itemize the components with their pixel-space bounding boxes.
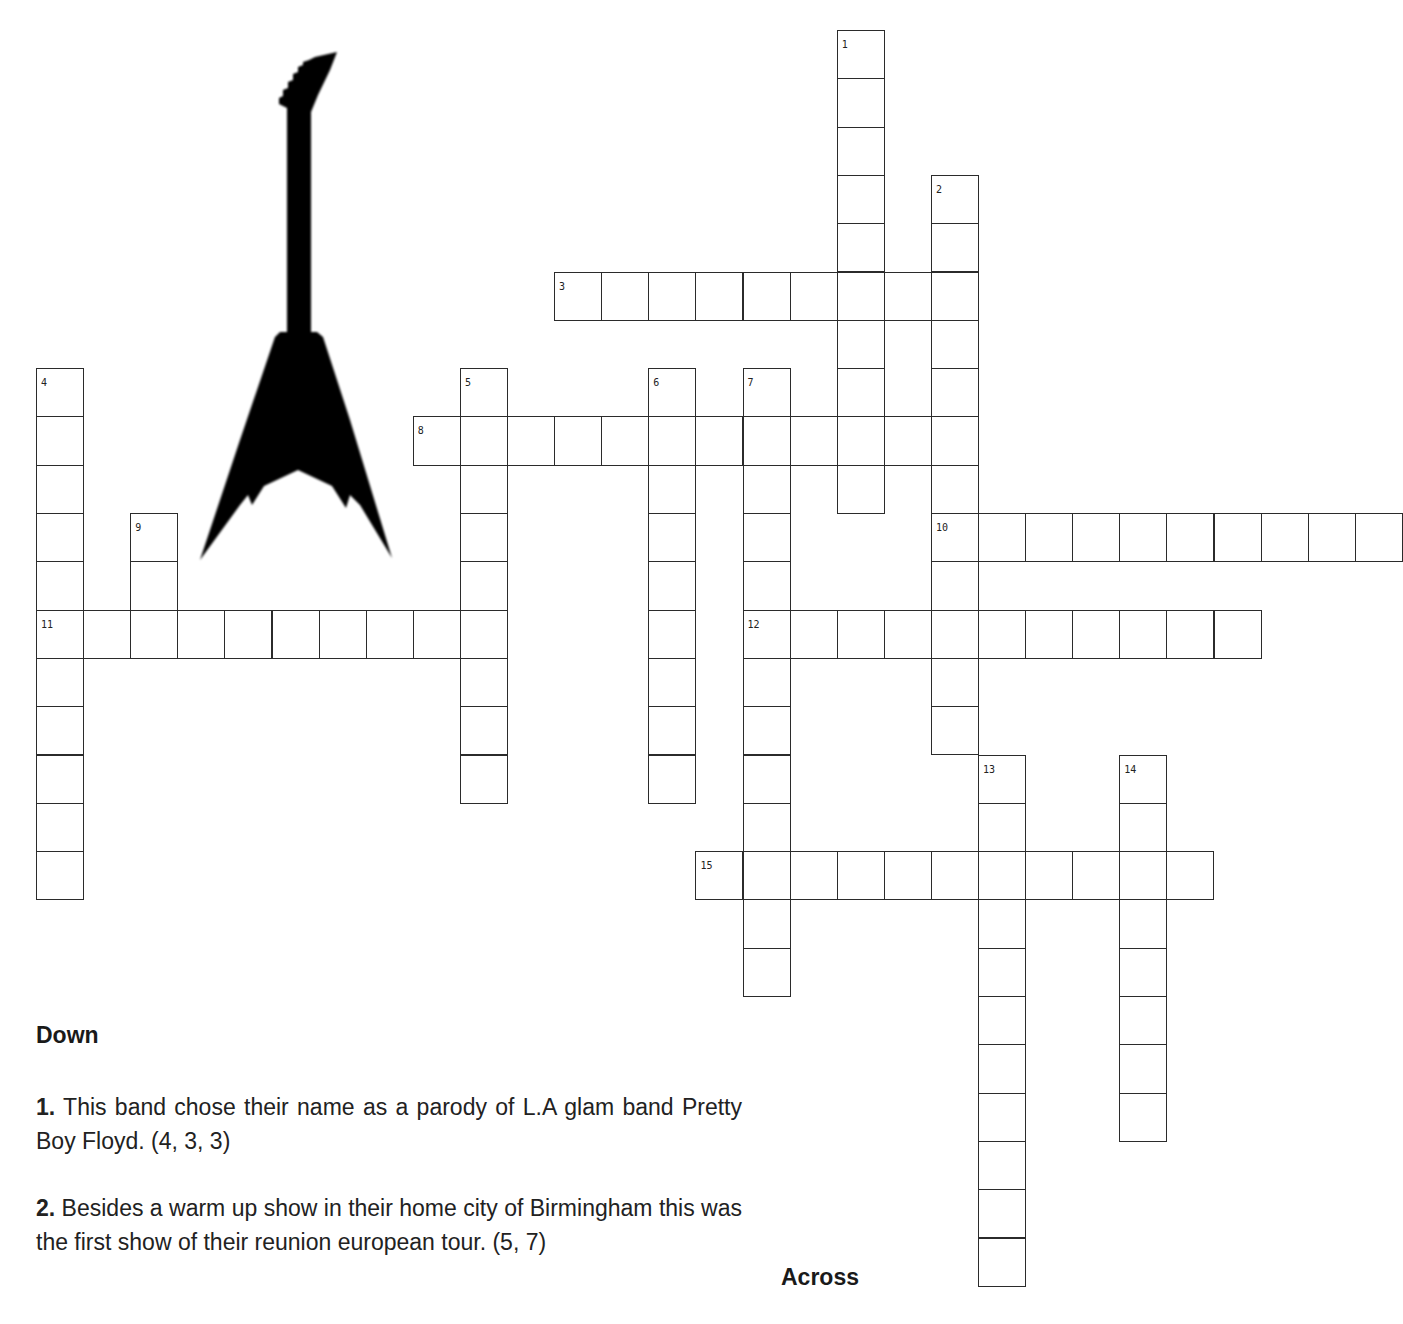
grid-cell[interactable]: 4: [36, 368, 84, 417]
grid-cell[interactable]: [1072, 513, 1120, 562]
grid-cell[interactable]: [931, 320, 979, 369]
grid-cell[interactable]: [837, 465, 885, 514]
grid-cell[interactable]: 11: [36, 610, 84, 659]
grid-cell[interactable]: [460, 658, 508, 707]
grid-cell[interactable]: [1119, 948, 1167, 997]
grid-cell[interactable]: [978, 1044, 1026, 1093]
grid-cell[interactable]: [1119, 610, 1167, 659]
grid-cell[interactable]: 5: [460, 368, 508, 417]
grid-cell[interactable]: [36, 706, 84, 755]
grid-cell[interactable]: [931, 465, 979, 514]
grid-cell[interactable]: [1308, 513, 1356, 562]
grid-cell[interactable]: [1166, 610, 1214, 659]
grid-cell[interactable]: [931, 368, 979, 417]
grid-cell[interactable]: [931, 706, 979, 755]
grid-cell[interactable]: [648, 610, 696, 659]
grid-cell[interactable]: 13: [978, 755, 1026, 804]
grid-cell[interactable]: [978, 1189, 1026, 1238]
grid-cell[interactable]: [36, 561, 84, 610]
grid-cell[interactable]: [460, 513, 508, 562]
grid-cell[interactable]: [648, 465, 696, 514]
grid-cell[interactable]: [884, 610, 932, 659]
grid-cell[interactable]: [648, 561, 696, 610]
grid-cell[interactable]: [837, 78, 885, 127]
grid-cell[interactable]: [743, 272, 791, 321]
grid-cell[interactable]: [1119, 1093, 1167, 1142]
grid-cell[interactable]: 1: [837, 30, 885, 79]
grid-cell[interactable]: [1119, 803, 1167, 852]
grid-cell[interactable]: [1119, 513, 1167, 562]
grid-cell[interactable]: [743, 706, 791, 755]
grid-cell[interactable]: [837, 320, 885, 369]
grid-cell[interactable]: [837, 127, 885, 176]
grid-cell[interactable]: [743, 755, 791, 804]
grid-cell[interactable]: [743, 658, 791, 707]
grid-cell[interactable]: 12: [743, 610, 791, 659]
grid-cell[interactable]: [460, 610, 508, 659]
grid-cell[interactable]: [1119, 899, 1167, 948]
grid-cell[interactable]: [743, 851, 791, 900]
grid-cell[interactable]: [36, 803, 84, 852]
grid-cell[interactable]: [978, 1141, 1026, 1190]
grid-cell[interactable]: [648, 658, 696, 707]
grid-cell[interactable]: [790, 272, 838, 321]
grid-cell[interactable]: [837, 272, 885, 321]
grid-cell[interactable]: [743, 899, 791, 948]
grid-cell[interactable]: [36, 755, 84, 804]
grid-cell[interactable]: [978, 513, 1026, 562]
grid-cell[interactable]: [460, 755, 508, 804]
grid-cell[interactable]: [36, 851, 84, 900]
grid-cell[interactable]: [648, 416, 696, 465]
grid-cell[interactable]: [931, 851, 979, 900]
grid-cell[interactable]: [837, 416, 885, 465]
grid-cell[interactable]: [884, 851, 932, 900]
grid-cell[interactable]: [837, 175, 885, 224]
grid-cell[interactable]: [1166, 851, 1214, 900]
grid-cell[interactable]: [1214, 610, 1262, 659]
grid-cell[interactable]: [648, 513, 696, 562]
grid-cell[interactable]: [130, 561, 178, 610]
grid-cell[interactable]: [224, 610, 272, 659]
grid-cell[interactable]: [978, 851, 1026, 900]
grid-cell[interactable]: [1025, 610, 1073, 659]
grid-cell[interactable]: [319, 610, 367, 659]
grid-cell[interactable]: [648, 272, 696, 321]
grid-cell[interactable]: 7: [743, 368, 791, 417]
grid-cell[interactable]: [978, 948, 1026, 997]
grid-cell[interactable]: [554, 416, 602, 465]
grid-cell[interactable]: [507, 416, 555, 465]
grid-cell[interactable]: 3: [554, 272, 602, 321]
grid-cell[interactable]: [931, 223, 979, 272]
grid-cell[interactable]: [978, 996, 1026, 1045]
grid-cell[interactable]: 9: [130, 513, 178, 562]
grid-cell[interactable]: [790, 851, 838, 900]
grid-cell[interactable]: [743, 561, 791, 610]
grid-cell[interactable]: [931, 561, 979, 610]
grid-cell[interactable]: [413, 610, 461, 659]
grid-cell[interactable]: [460, 706, 508, 755]
grid-cell[interactable]: [130, 610, 178, 659]
grid-cell[interactable]: [177, 610, 225, 659]
grid-cell[interactable]: [1214, 513, 1262, 562]
grid-cell[interactable]: [884, 272, 932, 321]
grid-cell[interactable]: [36, 513, 84, 562]
grid-cell[interactable]: [931, 272, 979, 321]
grid-cell[interactable]: [1119, 851, 1167, 900]
grid-cell[interactable]: [366, 610, 414, 659]
grid-cell[interactable]: [837, 368, 885, 417]
grid-cell[interactable]: [648, 755, 696, 804]
grid-cell[interactable]: [978, 1093, 1026, 1142]
grid-cell[interactable]: [931, 610, 979, 659]
grid-cell[interactable]: [790, 610, 838, 659]
grid-cell[interactable]: [978, 1238, 1026, 1287]
grid-cell[interactable]: [837, 610, 885, 659]
grid-cell[interactable]: [648, 706, 696, 755]
grid-cell[interactable]: [1261, 513, 1309, 562]
grid-cell[interactable]: 14: [1119, 755, 1167, 804]
grid-cell[interactable]: [695, 272, 743, 321]
grid-cell[interactable]: [743, 948, 791, 997]
grid-cell[interactable]: [36, 465, 84, 514]
grid-cell[interactable]: [83, 610, 131, 659]
grid-cell[interactable]: [978, 803, 1026, 852]
grid-cell[interactable]: [36, 658, 84, 707]
